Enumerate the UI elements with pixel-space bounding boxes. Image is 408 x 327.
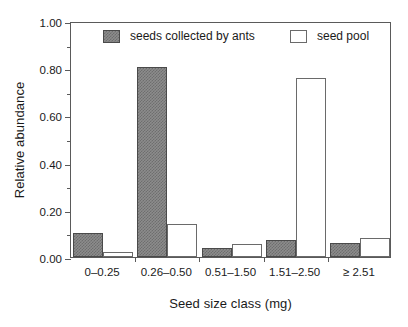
x-tick-label: 1.51–2.50	[269, 266, 320, 278]
x-tick	[135, 257, 136, 262]
bar-ants[interactable]	[137, 67, 167, 257]
x-tick	[264, 257, 265, 262]
y-tick-minor	[67, 94, 71, 95]
legend-entry-seed-pool[interactable]: seed pool	[290, 29, 369, 43]
y-tick-major	[65, 212, 71, 213]
legend-swatch-ants-icon	[103, 30, 120, 43]
y-tick-label: 0.00	[40, 253, 62, 265]
bar-ants[interactable]	[266, 240, 296, 257]
x-tick	[328, 257, 329, 262]
y-tick-label: 0.80	[40, 64, 62, 76]
legend-label-ants: seeds collected by ants	[130, 29, 255, 43]
x-tick-label: 0–0.25	[85, 266, 120, 278]
y-tick-major	[65, 165, 71, 166]
y-axis-title: Relative abundance	[8, 22, 30, 258]
bar-seed-pool[interactable]	[360, 238, 390, 257]
bar-ants[interactable]	[73, 233, 103, 257]
chart-legend: seeds collected by ants seed pool	[71, 23, 392, 259]
bar-ants[interactable]	[202, 248, 232, 257]
x-tick-label: ≥ 2.51	[343, 266, 375, 278]
y-tick-minor	[67, 141, 71, 142]
y-tick-label: 1.00	[40, 17, 62, 29]
bar-seed-pool[interactable]	[296, 78, 326, 257]
bar-seed-pool[interactable]	[232, 244, 262, 257]
x-axis-title: Seed size class (mg)	[70, 296, 391, 311]
y-tick-minor	[67, 188, 71, 189]
x-tick	[199, 257, 200, 262]
plot-area: 0.000.200.400.600.801.00 seeds collected…	[70, 22, 391, 258]
x-tick-label: 0.26–0.50	[141, 266, 192, 278]
legend-entry-ants[interactable]: seeds collected by ants	[103, 29, 255, 43]
y-tick-minor	[67, 47, 71, 48]
y-tick-major	[65, 259, 71, 260]
chart-figure: Relative abundance 0.000.200.400.600.801…	[0, 0, 408, 327]
y-tick-major	[65, 70, 71, 71]
legend-swatch-seed-pool-icon	[290, 30, 307, 43]
bar-ants[interactable]	[330, 243, 360, 257]
x-tick-label: 0.51–1.50	[205, 266, 256, 278]
bar-seed-pool[interactable]	[103, 252, 133, 257]
y-tick-label: 0.40	[40, 159, 62, 171]
y-tick-label: 0.20	[40, 206, 62, 218]
y-tick-major	[65, 23, 71, 24]
bar-seed-pool[interactable]	[167, 224, 197, 257]
legend-label-seed-pool: seed pool	[317, 29, 369, 43]
y-tick-major	[65, 117, 71, 118]
y-tick-minor	[67, 235, 71, 236]
y-tick-label: 0.60	[40, 111, 62, 123]
